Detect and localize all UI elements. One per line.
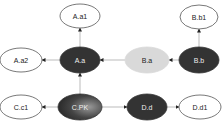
node-label: A.a xyxy=(75,57,86,64)
node-dd1[interactable]: D.d1 xyxy=(179,95,221,119)
node-bb1[interactable]: B.b1 xyxy=(180,5,218,29)
node-dd[interactable]: D.d xyxy=(127,94,167,120)
node-ba[interactable]: B.a xyxy=(125,47,169,73)
diagram-canvas: A.a1B.b1A.a2A.aB.aB.bC.c1C.PKD.dD.d1 xyxy=(0,0,224,127)
node-label: C.PK xyxy=(72,104,89,111)
node-cc1[interactable]: C.c1 xyxy=(0,95,42,119)
node-aa2[interactable]: A.a2 xyxy=(0,48,42,72)
node-label: B.a xyxy=(142,57,153,64)
node-label: D.d xyxy=(142,104,153,111)
node-bb[interactable]: B.b xyxy=(179,47,219,73)
node-aa1[interactable]: A.a1 xyxy=(60,4,100,28)
node-label: B.b xyxy=(194,57,205,64)
node-label: C.c1 xyxy=(14,104,29,111)
node-label: A.a1 xyxy=(73,13,88,20)
node-label: D.d1 xyxy=(193,104,208,111)
node-label: A.a2 xyxy=(14,57,29,64)
node-label: B.b1 xyxy=(192,14,207,21)
node-aa[interactable]: A.a xyxy=(60,47,100,73)
node-cpk[interactable]: C.PK xyxy=(58,94,102,120)
